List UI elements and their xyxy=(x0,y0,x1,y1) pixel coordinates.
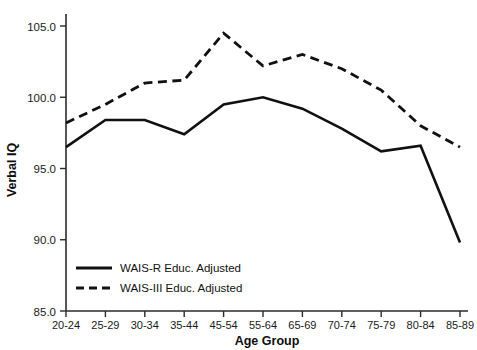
x-tick-label: 80-84 xyxy=(407,319,435,331)
y-tick-label: 95.0 xyxy=(34,163,56,175)
y-tick-label: 85.0 xyxy=(34,306,56,318)
x-tick-label: 45-54 xyxy=(210,319,238,331)
x-axis-tick-labels: 20-2425-2930-3435-4445-5455-6465-6970-74… xyxy=(52,319,474,331)
legend-label-wais-r: WAIS-R Educ. Adjusted xyxy=(120,262,241,274)
x-tick-label: 85-89 xyxy=(446,319,474,331)
line-chart-figure: 105.0 100.0 95.0 90.0 85.0 Verbal IQ 20-… xyxy=(0,0,477,350)
x-axis-title: Age Group xyxy=(235,334,300,348)
y-axis-ticks xyxy=(60,26,66,311)
x-tick-label: 55-64 xyxy=(249,319,277,331)
x-tick-label: 65-69 xyxy=(288,319,316,331)
x-tick-label: 20-24 xyxy=(52,319,80,331)
x-tick-label: 70-74 xyxy=(328,319,356,331)
chart-plot-area: 105.0 100.0 95.0 90.0 85.0 Verbal IQ 20-… xyxy=(0,0,477,350)
y-tick-label: 100.0 xyxy=(27,92,56,104)
chart-legend: WAIS-R Educ. Adjusted WAIS-III Educ. Adj… xyxy=(76,262,242,294)
data-series-group xyxy=(66,33,460,242)
y-axis-title: Verbal IQ xyxy=(5,143,19,197)
x-tick-label: 30-34 xyxy=(131,319,159,331)
series-line-wais-r xyxy=(66,97,460,242)
y-axis-tick-labels: 105.0 100.0 95.0 90.0 85.0 xyxy=(27,21,56,318)
x-axis-ticks xyxy=(66,311,460,317)
x-tick-label: 35-44 xyxy=(170,319,198,331)
legend-label-wais-iii: WAIS-III Educ. Adjusted xyxy=(120,282,242,294)
x-tick-label: 25-29 xyxy=(91,319,119,331)
y-tick-label: 105.0 xyxy=(27,21,56,33)
y-tick-label: 90.0 xyxy=(34,234,56,246)
x-tick-label: 75-79 xyxy=(367,319,395,331)
series-line-wais-iii xyxy=(66,33,460,147)
